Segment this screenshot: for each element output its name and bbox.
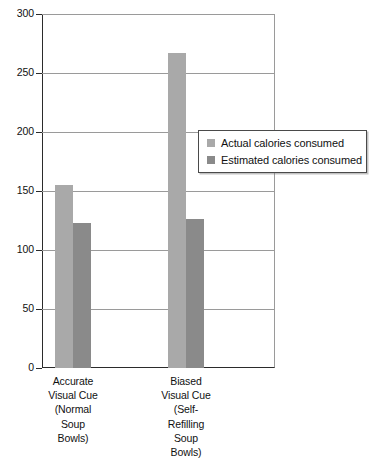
bar-chart: 050100150200250300 AccurateVisual Cue(No… (0, 0, 374, 464)
y-axis-tick-label: 200 (2, 126, 34, 137)
category-label-line: Soup (18, 417, 128, 431)
bar (186, 219, 204, 368)
gridline (42, 191, 275, 192)
y-axis-tick-label: 0 (2, 362, 34, 373)
category-label-line: Visual Cue (18, 388, 128, 402)
category-label-line: Accurate (18, 374, 128, 388)
bar (168, 53, 186, 368)
x-axis-category-label: BiasedVisual Cue(Self-RefillingSoupBowls… (131, 374, 241, 459)
gridline (42, 14, 275, 15)
y-axis-tick (36, 309, 42, 310)
y-axis-tick (36, 132, 42, 133)
legend-label-actual: Actual calories consumed (221, 138, 344, 149)
legend: Actual calories consumed Estimated calor… (198, 130, 367, 173)
category-label-line: (Normal (18, 402, 128, 416)
legend-label-estimated: Estimated calories consumed (221, 155, 362, 166)
gridline (42, 73, 275, 74)
category-label-line: Soup (131, 431, 241, 445)
category-label-line: Refilling (131, 417, 241, 431)
y-axis-tick-label: 250 (2, 67, 34, 78)
y-axis-tick (36, 73, 42, 74)
bar (73, 223, 91, 368)
y-axis-tick (36, 250, 42, 251)
y-axis-tick-label: 150 (2, 185, 34, 196)
category-label-line: Biased (131, 374, 241, 388)
category-label-line: Bowls) (18, 431, 128, 445)
legend-swatch-estimated (207, 156, 215, 164)
category-label-line: Bowls) (131, 445, 241, 459)
y-axis-tick (36, 14, 42, 15)
y-axis-tick-label: 300 (2, 8, 34, 19)
bar (55, 185, 73, 368)
y-axis-tick-label: 100 (2, 244, 34, 255)
category-label-line: Visual Cue (131, 388, 241, 402)
legend-item-actual: Actual calories consumed (207, 135, 344, 151)
y-axis-tick-label: 50 (2, 303, 34, 314)
legend-item-estimated: Estimated calories consumed (207, 152, 362, 168)
y-axis-tick (36, 191, 42, 192)
y-axis-tick (36, 368, 42, 369)
category-label-line: (Self- (131, 402, 241, 416)
x-axis-category-label: AccurateVisual Cue(NormalSoupBowls) (18, 374, 128, 445)
legend-swatch-actual (207, 139, 215, 147)
